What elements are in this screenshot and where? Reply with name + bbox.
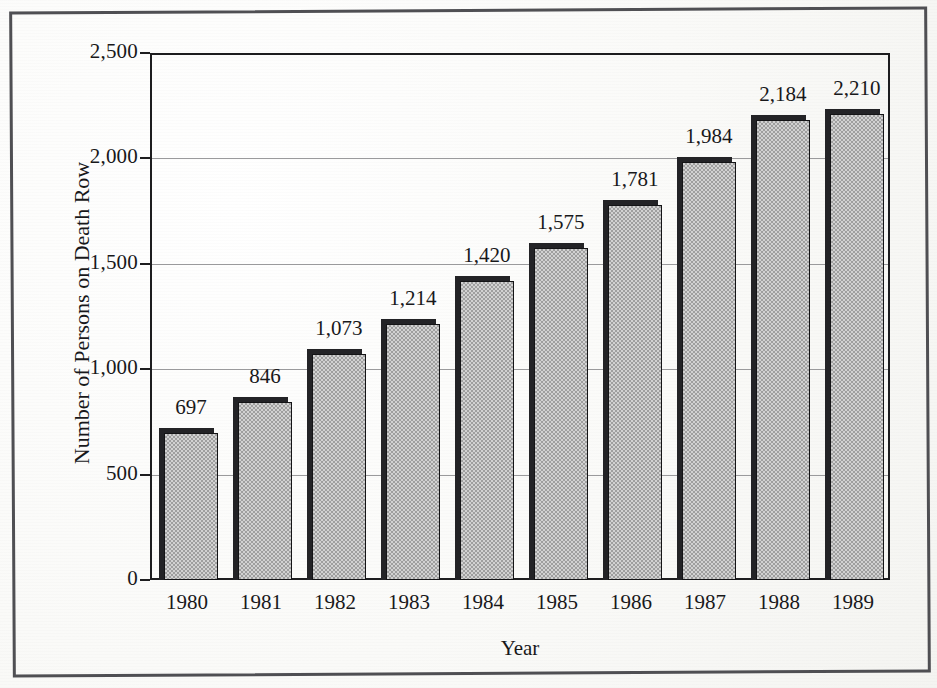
y-tick-1000 xyxy=(140,368,150,370)
bar-1986[interactable] xyxy=(608,205,661,580)
y-tick-label-wrap-0: 0 xyxy=(20,566,138,586)
y-tick-label-2500: 2,500 xyxy=(90,39,138,64)
bar-1989[interactable] xyxy=(830,114,883,580)
y-axis-title: Number of Persons on Death Row xyxy=(69,83,95,543)
bar-value-label-1983: 1,214 xyxy=(370,286,455,311)
y-axis-title-host: Number of Persons on Death Row xyxy=(48,0,49,1)
bar-1982[interactable] xyxy=(312,354,365,580)
bar-value-label-1988: 2,184 xyxy=(740,82,825,107)
bar-1988[interactable] xyxy=(756,120,809,580)
y-tick-label-1000: 1,000 xyxy=(90,355,138,380)
bar-value-label-1986: 1,781 xyxy=(592,167,677,192)
bar-value-label-1987: 1,984 xyxy=(666,124,751,149)
x-tick-label-1989: 1989 xyxy=(810,590,896,615)
y-tick-2500 xyxy=(140,52,150,54)
bar-value-label-1981: 846 xyxy=(222,364,307,389)
y-tick-2000 xyxy=(140,157,150,159)
bar-value-label-1984: 1,420 xyxy=(444,243,529,268)
bar-1980[interactable] xyxy=(164,433,217,580)
bar-1984[interactable] xyxy=(460,281,513,580)
y-tick-label-0: 0 xyxy=(127,566,138,591)
y-tick-label-500: 500 xyxy=(106,461,138,486)
bar-1985[interactable] xyxy=(534,248,587,580)
bar-chart-figure: 05001,0001,5002,0002,500 6978461,0731,21… xyxy=(0,0,937,688)
bar-1983[interactable] xyxy=(386,324,439,580)
bar-value-label-1989: 2,210 xyxy=(814,76,899,101)
y-tick-1500 xyxy=(140,263,150,265)
bar-value-label-1982: 1,073 xyxy=(296,316,381,341)
chart-page: 05001,0001,5002,0002,500 6978461,0731,21… xyxy=(0,0,937,688)
y-tick-label-2000: 2,000 xyxy=(90,144,138,169)
x-axis-title: Year xyxy=(150,636,890,661)
bar-1987[interactable] xyxy=(682,162,735,580)
y-tick-500 xyxy=(140,474,150,476)
bar-value-label-1985: 1,575 xyxy=(518,210,603,235)
bar-value-label-1980: 697 xyxy=(148,395,233,420)
y-tick-label-1500: 1,500 xyxy=(90,250,138,275)
y-tick-label-wrap-2500: 2,500 xyxy=(20,39,138,59)
y-tick-0 xyxy=(140,579,150,581)
bar-1981[interactable] xyxy=(238,402,291,580)
